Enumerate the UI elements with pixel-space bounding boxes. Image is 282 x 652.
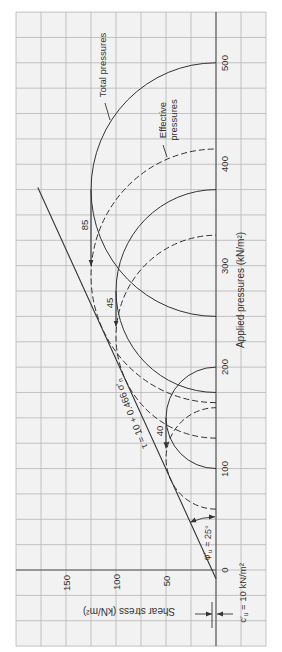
cohesion-subscript: u [242,613,249,617]
pore-pressure-label-85: 85 [80,220,90,231]
y-tick-50: 50 [162,576,172,587]
total-pressures-label: Total pressures [98,33,108,97]
x-tick-0: 0 [220,567,230,572]
x-tick-300: 300 [220,258,230,274]
y-tick-100: 100 [112,574,122,590]
friction-angle-symbol: φ′ [201,553,212,561]
cohesion-value: = 10 kN/m² [237,563,248,612]
y-tick-150: 150 [62,575,72,591]
effective-pressures-line1: Effective [157,99,168,141]
x-tick-100: 100 [220,461,230,477]
effective-pressures-label: Effective pressures [157,99,179,141]
x-tick-400: 400 [220,156,230,172]
x-tick-500: 500 [220,55,230,71]
y-axis-title: Shear stress (kN/m²) [83,606,175,616]
friction-angle-value: = 25° [202,525,214,550]
cohesion-label: c′u = 10 kN/m² [238,563,248,623]
pore-pressure-label-45: 45 [105,298,115,309]
x-axis-title: Applied pressures (kN/m²) [236,232,246,348]
x-tick-200: 200 [220,359,230,375]
pore-pressure-label-40: 40 [155,426,165,437]
grid [16,12,266,646]
effective-pressures-line2: pressures [168,99,179,141]
cohesion-symbol: c′ [237,616,248,623]
